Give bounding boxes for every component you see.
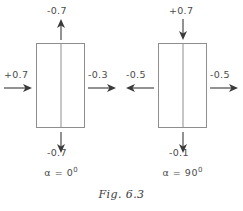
body-rectangle [36,43,85,128]
left-arrow-label: +0.7 [4,70,28,80]
arrow-left-icon [126,82,154,94]
alpha-caption: α = 00 [0,167,122,178]
alpha-caption: α = 900 [122,167,243,178]
right-arrow-label: -0.5 [210,70,230,80]
alpha-symbol: α [44,167,51,178]
top-arrow-label: -0.7 [47,6,67,16]
alpha-symbol: α [163,167,170,178]
arrow-right-icon [4,82,32,94]
diagram-alpha-90: +0.7 -0.5 -0.5 [122,0,243,186]
centre-divider-line [60,44,61,127]
left-arrow-label: -0.5 [126,70,146,80]
arrow-down-icon [177,19,189,40]
alpha-value: 90 [185,167,198,178]
centre-divider-line [182,44,183,127]
arrow-up-icon [55,19,67,40]
bottom-arrow-label: -0.1 [169,148,189,158]
figure-number-caption: Fig. 6.3 [0,189,243,200]
arrow-right-icon [210,82,238,94]
body-rectangle [158,43,207,128]
alpha-degree-unit: 0 [198,166,202,174]
bottom-arrow-label: -0.7 [47,148,67,158]
figure-page: -0.7 +0.7 -0.3 [0,0,243,211]
alpha-equals: = [173,167,181,178]
arrow-right-icon [88,82,116,94]
top-arrow-label: +0.7 [169,6,193,16]
diagram-alpha-0: -0.7 +0.7 -0.3 [0,0,122,186]
right-arrow-label: -0.3 [88,70,108,80]
alpha-degree-unit: 0 [73,166,77,174]
alpha-equals: = [55,167,63,178]
